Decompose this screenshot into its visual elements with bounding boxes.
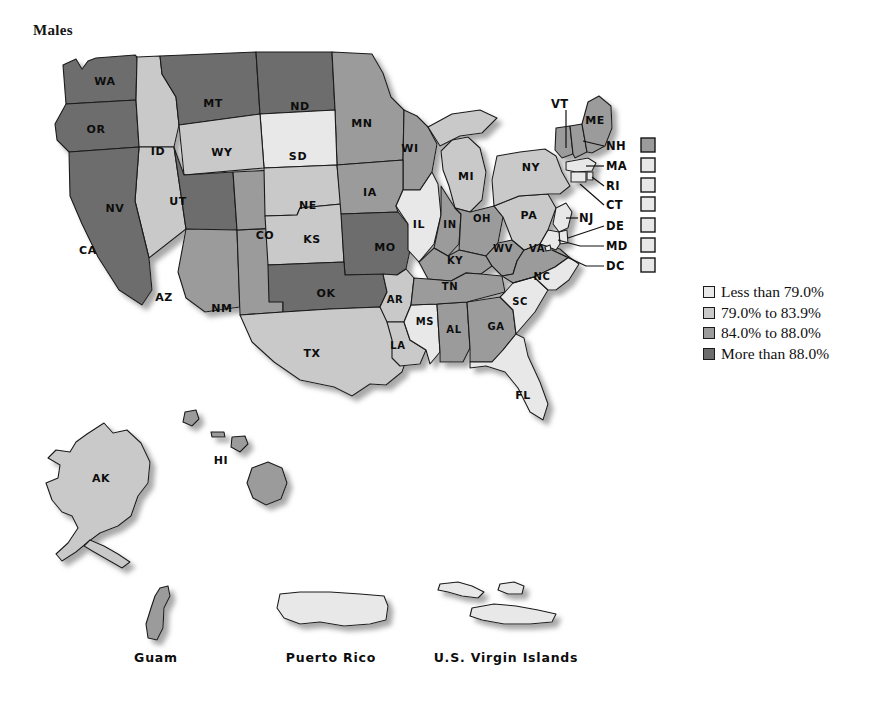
state-AZ[interactable] xyxy=(178,229,240,312)
state-label-VA: VA xyxy=(529,243,545,254)
legend-swatch-0 xyxy=(703,286,715,298)
callout-label-DE: DE xyxy=(606,219,624,233)
state-label-NV: NV xyxy=(106,202,125,215)
state-label-WI: WI xyxy=(401,142,418,155)
callout-swatch-DE xyxy=(641,218,655,232)
leader-RI xyxy=(592,177,604,186)
state-label-HI: HI xyxy=(214,454,229,467)
state-label-AL: AL xyxy=(446,324,461,335)
legend-label-0: Less than 79.0% xyxy=(721,283,824,301)
state-WY[interactable] xyxy=(179,114,264,175)
state-HI-maui[interactable] xyxy=(231,436,248,452)
callout-swatch-MA xyxy=(641,158,655,172)
legend-label-3: More than 88.0% xyxy=(721,345,829,363)
state-label-NC: NC xyxy=(534,271,551,282)
territory-VI-stcroix[interactable] xyxy=(470,604,556,624)
state-label-IL: IL xyxy=(413,218,425,231)
callout-swatch-CT xyxy=(641,197,655,211)
state-MA[interactable] xyxy=(566,158,596,172)
state-label-AZ: AZ xyxy=(155,291,173,304)
legend-item-3[interactable]: More than 88.0% xyxy=(703,344,829,365)
territory-VI-stthomas[interactable] xyxy=(438,582,484,598)
state-RI[interactable] xyxy=(587,172,593,180)
state-label-WA: WA xyxy=(94,75,115,88)
state-label-WV: WV xyxy=(493,243,513,254)
state-label-SD: SD xyxy=(289,150,307,163)
callout-swatch-NH xyxy=(641,138,655,152)
legend-item-0[interactable]: Less than 79.0% xyxy=(703,282,829,303)
state-MN[interactable] xyxy=(332,52,404,165)
territory-label-GU: Guam xyxy=(134,650,178,665)
legend-swatch-3 xyxy=(703,348,715,360)
callout-label-NH: NH xyxy=(606,139,626,153)
state-HI-kauai[interactable] xyxy=(183,410,199,426)
state-label-AR: AR xyxy=(387,294,404,305)
callout-swatch-RI xyxy=(641,178,655,192)
legend-label-1: 79.0% to 83.9% xyxy=(721,304,821,322)
territory-VI-small[interactable] xyxy=(498,582,524,594)
callout-label-NJ: NJ xyxy=(579,211,594,225)
state-label-NE: NE xyxy=(299,199,317,212)
state-label-ID: ID xyxy=(151,145,165,158)
territories-group: Guam Puerto Rico U.S. Virgin Islands xyxy=(134,582,578,665)
state-label-IA: IA xyxy=(363,186,377,199)
state-label-NM: NM xyxy=(211,302,232,315)
state-label-SC: SC xyxy=(512,296,528,307)
state-label-IN: IN xyxy=(443,219,456,230)
state-HI-oahu[interactable] xyxy=(211,432,225,437)
hawaii-group xyxy=(183,410,287,505)
state-CT[interactable] xyxy=(571,172,586,182)
state-label-WY: WY xyxy=(211,146,233,159)
legend-item-2[interactable]: 84.0% to 88.0% xyxy=(703,323,829,344)
state-label-OR: OR xyxy=(86,123,105,136)
state-HI-bigisland[interactable] xyxy=(247,462,287,505)
leader-CT xyxy=(580,184,604,205)
state-TX[interactable] xyxy=(240,307,408,396)
state-label-AK: AK xyxy=(92,472,110,485)
state-label-MO: MO xyxy=(374,241,396,254)
state-label-GA: GA xyxy=(487,321,504,332)
alaska-aleutians[interactable] xyxy=(84,540,130,568)
legend-item-1[interactable]: 79.0% to 83.9% xyxy=(703,303,829,324)
state-label-OH: OH xyxy=(473,213,491,224)
state-AK[interactable] xyxy=(46,423,150,561)
state-label-ND: ND xyxy=(290,100,310,113)
state-label-PA: PA xyxy=(521,209,538,222)
territory-GU[interactable] xyxy=(146,586,170,640)
state-label-ME: ME xyxy=(585,114,605,127)
callout-label-DC: DC xyxy=(606,259,625,273)
legend-swatch-1 xyxy=(703,307,715,319)
state-label-LA: LA xyxy=(390,340,405,351)
legend-swatch-2 xyxy=(703,327,715,339)
alaska-group xyxy=(46,423,150,568)
callout-label-MD: MD xyxy=(606,239,628,253)
leader-DE xyxy=(568,226,604,238)
state-label-KS: KS xyxy=(303,233,321,246)
state-label-FL: FL xyxy=(515,389,531,402)
territory-label-VI: U.S. Virgin Islands xyxy=(434,650,579,665)
legend: Less than 79.0% 79.0% to 83.9% 84.0% to … xyxy=(703,282,829,364)
state-label-UT: UT xyxy=(169,195,187,208)
state-label-TN: TN xyxy=(442,281,458,292)
state-label-NY: NY xyxy=(522,161,541,174)
callout-swatch-DC xyxy=(641,258,655,272)
callout-label-RI: RI xyxy=(606,179,620,193)
state-label-CO: CO xyxy=(256,229,275,242)
territory-label-PR: Puerto Rico xyxy=(286,650,376,665)
callout-label-MA: MA xyxy=(606,159,627,173)
callout-swatch-MD xyxy=(641,238,655,252)
contiguous-us-group xyxy=(55,52,612,420)
legend-label-2: 84.0% to 88.0% xyxy=(721,324,821,342)
state-label-TX: TX xyxy=(303,347,320,360)
state-label-MN: MN xyxy=(351,117,372,130)
state-label-MT: MT xyxy=(203,97,223,110)
state-label-MS: MS xyxy=(416,316,434,327)
state-label-KY: KY xyxy=(447,255,463,266)
state-label-MI: MI xyxy=(458,170,474,183)
state-label-CA: CA xyxy=(79,244,97,257)
callout-label-CT: CT xyxy=(606,198,623,212)
territory-PR[interactable] xyxy=(277,592,388,626)
callout-label-VT: VT xyxy=(551,97,569,111)
state-label-OK: OK xyxy=(316,287,335,300)
